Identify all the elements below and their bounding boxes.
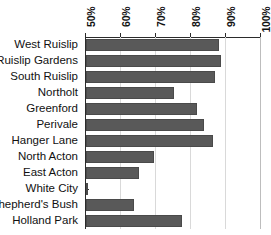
bar	[86, 167, 139, 179]
bar	[86, 87, 174, 99]
y-axis-category-label: Ruislip Gardens	[0, 53, 78, 69]
y-axis-category-label: Hanger Lane	[12, 133, 79, 149]
y-axis-category-label: Shepherd's Bush	[0, 197, 78, 213]
x-axis-tick-labels: 50%60%70%80%90%100%	[0, 0, 271, 36]
bar	[86, 119, 204, 131]
gridline	[260, 37, 261, 229]
y-axis-category-label: North Acton	[18, 149, 78, 165]
bar	[86, 215, 182, 227]
y-axis-category-label: South Ruislip	[10, 69, 78, 85]
y-axis-category-label: East Acton	[23, 165, 78, 181]
bar	[86, 103, 197, 115]
y-axis-category-labels: West RuislipRuislip GardensSouth Ruislip…	[0, 37, 82, 229]
bar	[86, 71, 215, 83]
y-axis-category-label: Perivale	[36, 117, 78, 133]
bar	[86, 151, 154, 163]
y-axis-category-label: White City	[26, 181, 78, 197]
x-axis-tick-label: 100%	[260, 7, 271, 43]
y-axis-category-label: West Ruislip	[14, 37, 78, 53]
y-axis-category-label: Northolt	[38, 85, 78, 101]
bar	[86, 135, 213, 147]
bar	[86, 183, 88, 195]
bar	[86, 39, 219, 51]
bar-series	[86, 37, 260, 229]
bar	[86, 199, 134, 211]
y-axis-category-label: Greenford	[26, 101, 78, 117]
bar-chart: 50%60%70%80%90%100% West RuislipRuislip …	[0, 0, 271, 235]
bar	[86, 55, 221, 67]
y-axis-category-label: Holland Park	[12, 213, 78, 229]
